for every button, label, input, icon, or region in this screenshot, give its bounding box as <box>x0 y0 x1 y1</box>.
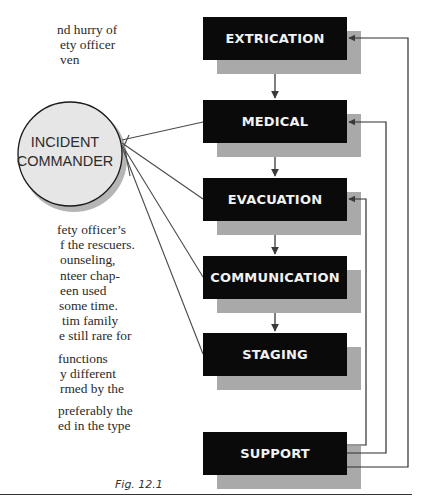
incident-commander-label: INCIDENT COMMANDER <box>0 133 130 171</box>
support-feedback-lines <box>347 38 408 467</box>
commander-line-1: INCIDENT <box>0 133 130 152</box>
box-medical: MEDICAL <box>203 100 347 143</box>
commander-line-2: COMMANDER <box>0 152 130 171</box>
figure-caption: Fig. 12.1 <box>115 478 163 491</box>
box-staging: STAGING <box>203 333 347 376</box>
commander-connectors <box>122 122 203 354</box>
box-support: SUPPORT <box>203 432 347 475</box>
box-evacuation: EVACUATION <box>203 178 347 221</box>
box-communication: COMMUNICATION <box>203 256 347 299</box>
org-chart-diagram <box>0 0 425 503</box>
box-extrication: EXTRICATION <box>203 17 347 60</box>
page-divider <box>0 494 412 495</box>
